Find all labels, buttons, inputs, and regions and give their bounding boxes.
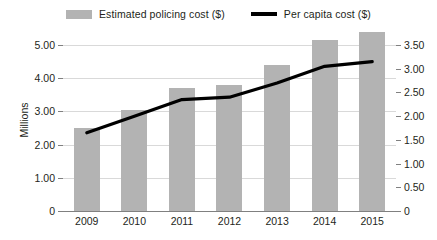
legend-bar-swatch-icon: [66, 10, 92, 19]
y-axis-right-tick-label: 3.50: [404, 39, 424, 51]
y-axis-left-tick-label: 4.00: [35, 72, 55, 84]
chart-legend: Estimated policing cost ($) Per capita c…: [0, 8, 437, 20]
y-axis-left-tick-label: 1.00: [35, 172, 55, 184]
y-axis-right-tick-label: 0: [404, 205, 410, 217]
x-axis-line: [58, 211, 401, 212]
x-axis-tick-label: 2013: [253, 215, 301, 227]
x-axis-tick-label: 2010: [111, 215, 159, 227]
y-axis-right-tick-label: 3.00: [404, 63, 424, 75]
y-axis-right-tick: [396, 45, 401, 46]
legend-label-policing-cost: Estimated policing cost ($): [99, 8, 225, 20]
line-path[interactable]: [87, 62, 372, 133]
x-axis-tick-label: 2011: [158, 215, 206, 227]
y-axis-right-tick: [396, 69, 401, 70]
y-axis-right-tick-label: 2.50: [404, 86, 424, 98]
x-axis-tick-label: 2012: [206, 215, 254, 227]
y-axis-right-tick-label: 1.50: [404, 134, 424, 146]
x-axis-tick-label: 2014: [301, 215, 349, 227]
y-axis-left-tick-label: 5.00: [35, 39, 55, 51]
y-axis-right-tick: [396, 164, 401, 165]
y-axis-right-tick-label: 2.00: [404, 110, 424, 122]
plot-area: 01.002.003.004.005.00 00.501.001.502.002…: [63, 45, 396, 212]
chart-container: Estimated policing cost ($) Per capita c…: [0, 0, 437, 240]
x-axis-tick-label: 2009: [63, 215, 111, 227]
legend-item-per-capita-cost: Per capita cost ($): [251, 8, 371, 20]
line-series: [63, 45, 396, 212]
y-axis-left-tick-label: 2.00: [35, 139, 55, 151]
y-axis-right-tick: [396, 187, 401, 188]
y-axis-title: Millions: [18, 102, 30, 137]
y-axis-left-tick-label: 3.00: [35, 105, 55, 117]
legend-label-per-capita-cost: Per capita cost ($): [284, 8, 371, 20]
y-axis-left-tick-label: 0: [49, 205, 55, 217]
x-axis-tick-label: 2015: [348, 215, 396, 227]
legend-line-swatch-icon: [251, 12, 277, 16]
y-axis-right-tick: [396, 92, 401, 93]
y-axis-right-tick-label: 1.00: [404, 158, 424, 170]
y-axis-right-tick: [396, 116, 401, 117]
y-axis-right-tick: [396, 140, 401, 141]
legend-item-policing-cost: Estimated policing cost ($): [66, 8, 225, 20]
y-axis-right-tick-label: 0.50: [404, 181, 424, 193]
